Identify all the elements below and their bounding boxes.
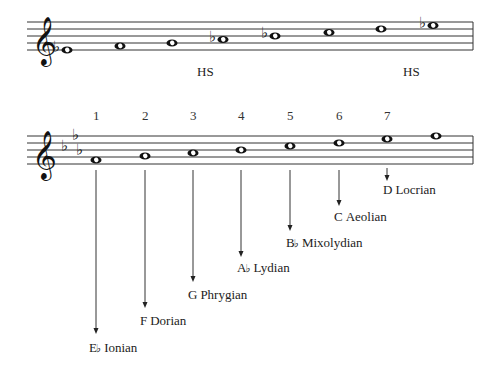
note-f4 xyxy=(140,152,151,159)
mode-label-lydian: A♭Lydian xyxy=(237,260,290,275)
note-d5 xyxy=(376,25,387,32)
note-eb5 xyxy=(428,22,439,29)
mode-arrows: E♭IonianFDorianGPhrygianA♭LydianB♭Mixoly… xyxy=(89,168,436,355)
mode-diagram: 𝄞♭♭♭♭HSHS 𝄞♭♭♭1234567 E♭IonianFDorianGPh… xyxy=(0,0,502,367)
arrow-head-icon xyxy=(143,302,148,308)
flat-icon: ♭ xyxy=(76,141,83,159)
mode-label-locrian: DLocrian xyxy=(383,182,436,197)
note-d5 xyxy=(382,135,393,142)
note-ab4 xyxy=(218,36,229,43)
note-eb5 xyxy=(431,132,442,139)
arrow-head-icon xyxy=(239,251,244,257)
arrow-head-icon xyxy=(288,225,293,231)
arrow-head-icon xyxy=(385,175,390,181)
note-bb4 xyxy=(270,32,281,39)
flat-icon: ♭ xyxy=(261,24,268,42)
scale-degree-3: 3 xyxy=(190,108,197,123)
mode-label-dorian: FDorian xyxy=(140,313,187,328)
staff-2: 𝄞♭♭♭1234567 xyxy=(27,108,473,181)
scale-degree-7: 7 xyxy=(384,108,391,123)
scale-degree-4: 4 xyxy=(238,108,245,123)
flat-icon: ♭ xyxy=(419,14,426,32)
arrow-head-icon xyxy=(337,200,342,206)
mode-label-aeolian: CAeolian xyxy=(334,209,387,224)
scale-degree-2: 2 xyxy=(142,108,149,123)
note-c5 xyxy=(334,139,345,146)
scale-degree-1: 1 xyxy=(93,108,100,123)
note-eb4 xyxy=(62,46,73,53)
arrow-head-icon xyxy=(191,276,196,282)
half-step-marker: HS xyxy=(197,64,214,79)
note-ab4 xyxy=(236,146,247,153)
staff-1: 𝄞♭♭♭♭HSHS xyxy=(27,14,473,80)
note-g4 xyxy=(188,149,199,156)
treble-clef-icon: 𝄞 xyxy=(32,130,57,181)
note-c5 xyxy=(324,29,335,36)
scale-degree-5: 5 xyxy=(287,108,294,123)
note-bb4 xyxy=(285,142,296,149)
note-eb4 xyxy=(91,156,102,163)
arrow-head-icon xyxy=(94,328,99,334)
scale-degree-6: 6 xyxy=(336,108,343,123)
mode-label-mixolydian: B♭Mixolydian xyxy=(286,235,363,250)
mode-label-phrygian: GPhrygian xyxy=(188,287,248,302)
flat-icon: ♭ xyxy=(53,38,60,56)
mode-label-ionian: E♭Ionian xyxy=(89,340,138,355)
note-g4 xyxy=(167,39,178,46)
flat-icon: ♭ xyxy=(209,28,216,46)
note-f4 xyxy=(115,42,126,49)
flat-icon: ♭ xyxy=(61,137,68,155)
half-step-marker: HS xyxy=(403,64,420,79)
